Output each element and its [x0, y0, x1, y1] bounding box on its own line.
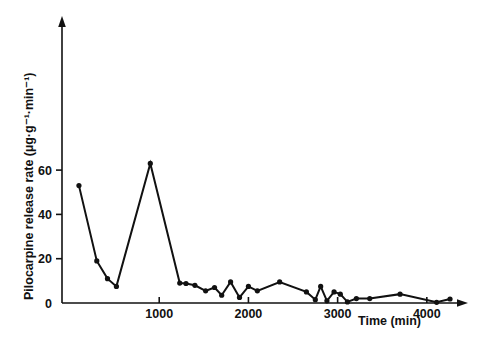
- data-point: [354, 296, 359, 301]
- x-axis-arrowhead: [457, 299, 468, 307]
- x-axis-label: Time (min): [358, 314, 421, 328]
- x-tick-label: 1000: [145, 307, 173, 321]
- x-tick-label: 2000: [235, 307, 263, 321]
- data-point: [277, 279, 282, 284]
- data-point: [318, 284, 323, 289]
- data-point: [304, 289, 309, 294]
- y-tick-label: 60: [38, 164, 52, 178]
- data-point: [192, 283, 197, 288]
- data-point: [255, 288, 260, 293]
- y-tick-label: 0: [45, 297, 52, 311]
- x-tick-label: 4000: [413, 307, 441, 321]
- data-point: [228, 279, 233, 284]
- data-point: [434, 300, 439, 305]
- data-point: [338, 292, 343, 297]
- series-markers: [76, 161, 452, 305]
- data-point: [148, 161, 153, 166]
- y-axis-arrowhead: [58, 16, 66, 27]
- data-point: [183, 281, 188, 286]
- x-tick-label: 3000: [324, 307, 352, 321]
- data-point: [177, 280, 182, 285]
- y-axis-ticks: 0204060: [38, 164, 62, 311]
- data-point: [105, 276, 110, 281]
- y-tick-label: 40: [38, 208, 52, 222]
- y-axis-label: Pilocarpine release rate (µg·g⁻¹·min⁻¹): [22, 72, 36, 300]
- data-point: [203, 288, 208, 293]
- data-point: [324, 298, 329, 303]
- data-point: [94, 258, 99, 263]
- series-line-pilocarpine-release-rate: [79, 163, 450, 302]
- data-point: [114, 284, 119, 289]
- pilocarpine-release-chart: Pilocarpine release rate (µg·g⁻¹·min⁻¹) …: [0, 0, 478, 346]
- data-point: [447, 296, 452, 301]
- data-point: [367, 296, 372, 301]
- data-point: [331, 289, 336, 294]
- data-point: [246, 284, 251, 289]
- data-point: [313, 297, 318, 302]
- data-point: [237, 295, 242, 300]
- data-point: [397, 292, 402, 297]
- data-point: [212, 285, 217, 290]
- axes: [58, 16, 468, 307]
- data-point: [219, 293, 224, 298]
- y-tick-label: 20: [38, 252, 52, 266]
- data-point: [76, 183, 81, 188]
- data-point: [345, 299, 350, 304]
